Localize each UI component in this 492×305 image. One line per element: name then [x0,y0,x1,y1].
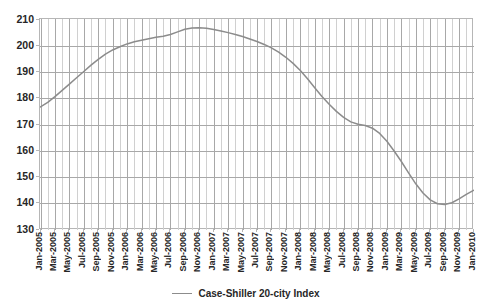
x-axis-tick-mark [112,229,113,232]
x-axis-tick-label: May-2008 [323,232,332,273]
y-axis-tick-label: 210 [16,14,34,24]
x-axis-tick-label: May-2005 [63,232,72,273]
x-axis-tick-mark [155,229,156,232]
x-axis-tick-label: Mar-2006 [136,232,145,271]
x-axis-tick-mark [141,229,142,232]
y-axis: 210200190180170160150140130 [0,0,39,240]
x-axis-tick-label: Jul-2009 [424,232,433,268]
x-axis-tick-label: Jul-2008 [338,232,347,268]
x-axis-tick-label: Sep-2005 [92,232,101,272]
x-axis-tick-label: Jan-2008 [294,232,303,271]
x-axis-tick-mark [270,229,271,232]
x-axis-tick-mark [40,229,41,232]
x-axis-tick-label: Mar-2008 [309,232,318,271]
x-axis-tick-label: Mar-2005 [49,232,58,271]
x-axis-tick-mark [328,229,329,232]
x-axis-tick-label: Mar-2007 [222,232,231,271]
y-axis-tick-label: 160 [16,145,34,155]
x-axis-tick-label: Mar-2009 [395,232,404,271]
x-axis-tick-mark [126,229,127,232]
x-axis-tick-mark [54,229,55,232]
x-axis-tick-mark [169,229,170,232]
x-axis-tick-label: Jul-2005 [78,232,87,268]
series-case-shiller-20-city-index [40,19,474,230]
x-axis-tick-label: Sep-2009 [439,232,448,272]
x-axis-tick-mark [444,229,445,232]
x-axis-tick-label: Jan-2010 [468,232,477,271]
x-axis-tick-mark [314,229,315,232]
x-axis-tick-mark [343,229,344,232]
y-axis-tick-label: 200 [16,40,34,50]
x-axis-tick-label: Sep-2006 [179,232,188,272]
x-axis-tick-mark [415,229,416,232]
x-axis-tick-mark [400,229,401,232]
x-axis-tick-mark [386,229,387,232]
y-axis-tick-label: 150 [16,171,34,181]
x-axis-tick-mark [198,229,199,232]
x-axis-tick-label: Jul-2007 [251,232,260,268]
x-axis-tick-mark [83,229,84,232]
x-axis-tick-mark [357,229,358,232]
x-axis-tick-mark [213,229,214,232]
y-axis-tick-label: 190 [16,66,34,76]
x-axis-tick-label: Jan-2006 [121,232,130,271]
x-axis-tick-label: May-2007 [237,232,246,273]
x-axis-tick-mark [97,229,98,232]
x-axis-tick-mark [242,229,243,232]
x-axis-tick-label: Nov-2005 [107,232,116,272]
y-axis-tick-label: 170 [16,119,34,129]
x-axis-tick-label: Nov-2009 [453,232,462,272]
x-axis-tick-mark [458,229,459,232]
x-axis-tick-label: Jan-2009 [381,232,390,271]
x-axis-tick-label: Sep-2008 [352,232,361,272]
legend-item-case-shiller: Case-Shiller 20-city Index [172,288,319,299]
x-axis-tick-mark [429,229,430,232]
y-axis-tick-label: 140 [16,197,34,207]
legend-label: Case-Shiller 20-city Index [198,288,319,299]
x-axis-tick-label: Jan-2007 [208,232,217,271]
y-axis-tick-label: 130 [16,224,34,234]
x-axis-tick-mark [227,229,228,232]
x-axis-tick-label: Nov-2007 [280,232,289,272]
chart-container: 210200190180170160150140130 Jan-2005Mar-… [0,0,492,305]
x-axis-tick-label: Jul-2006 [164,232,173,268]
x-axis-tick-mark [184,229,185,232]
x-axis-tick-label: May-2009 [410,232,419,273]
x-axis-tick-label: Jan-2005 [35,232,44,271]
legend-line-swatch [172,293,192,294]
x-axis-tick-mark [68,229,69,232]
chart-legend: Case-Shiller 20-city Index [0,285,492,299]
x-axis-tick-label: Nov-2006 [193,232,202,272]
plot-area [39,18,473,229]
y-axis-tick-label: 180 [16,92,34,102]
x-axis-tick-mark [299,229,300,232]
x-axis: Jan-2005Mar-2005May-2005Jul-2005Sep-2005… [39,230,473,290]
x-axis-tick-label: May-2006 [150,232,159,273]
x-axis-tick-mark [285,229,286,232]
x-axis-tick-label: Nov-2008 [366,232,375,272]
x-axis-tick-mark [473,229,474,232]
x-axis-tick-mark [371,229,372,232]
x-axis-tick-label: Sep-2007 [265,232,274,272]
x-axis-tick-mark [256,229,257,232]
